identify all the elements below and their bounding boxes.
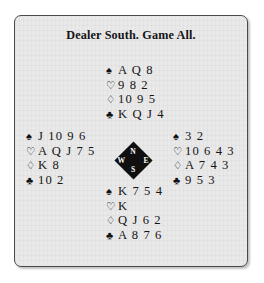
hand-north-hearts: 9 8 2 <box>118 79 149 92</box>
hand-north-diamonds: 10 9 5 <box>118 93 156 106</box>
diamond-icon: ♢ <box>173 161 185 172</box>
compass-label-south: S <box>114 166 152 174</box>
club-icon: ♣ <box>106 230 118 241</box>
bridge-deal-diagram: Dealer South. Game All. ♠ A Q 8 ♡ 9 8 2 … <box>14 15 248 267</box>
spade-icon: ♠ <box>26 131 38 142</box>
hand-west-clubs: 10 2 <box>38 174 64 187</box>
hand-west-hearts-row: ♡ A Q J 7 5 <box>26 145 95 160</box>
hand-west-spades-row: ♠ J 10 9 6 <box>26 130 95 145</box>
spade-icon: ♠ <box>106 186 118 197</box>
hand-south-clubs-row: ♣ A 8 7 6 <box>106 229 163 244</box>
club-icon: ♣ <box>173 175 185 186</box>
hand-south-spades: K 7 5 4 <box>118 185 163 198</box>
diamond-icon: ♢ <box>106 216 118 227</box>
heart-icon: ♡ <box>106 81 118 92</box>
hand-west: ♠ J 10 9 6 ♡ A Q J 7 5 ♢ K 8 ♣ 10 2 <box>26 130 95 188</box>
compass-rose-icon: N W E S <box>114 141 152 179</box>
hand-east-diamonds: A 7 4 3 <box>185 159 229 172</box>
spade-icon: ♠ <box>173 131 185 142</box>
hand-west-hearts: A Q J 7 5 <box>38 145 95 158</box>
hand-west-spades: J 10 9 6 <box>38 130 86 143</box>
heart-icon: ♡ <box>173 147 185 158</box>
compass-label-east: E <box>114 157 152 165</box>
heart-icon: ♡ <box>26 147 38 158</box>
hand-south-clubs: A 8 7 6 <box>118 229 162 242</box>
hand-south-hearts: K <box>118 200 128 213</box>
club-icon: ♣ <box>106 109 118 120</box>
hand-north-spades-row: ♠ A Q 8 <box>106 64 165 79</box>
club-icon: ♣ <box>26 175 38 186</box>
hand-north-clubs: K Q J 4 <box>118 108 165 121</box>
hand-south-hearts-row: ♡ K <box>106 200 163 215</box>
deal-title: Dealer South. Game All. <box>15 28 247 43</box>
hand-east-hearts-row: ♡ 10 6 4 3 <box>173 145 235 160</box>
hand-north-clubs-row: ♣ K Q J 4 <box>106 108 165 123</box>
spade-icon: ♠ <box>106 65 118 76</box>
hand-east-spades-row: ♠ 3 2 <box>173 130 235 145</box>
hand-north-spades: A Q 8 <box>118 64 154 77</box>
heart-icon: ♡ <box>106 202 118 213</box>
diamond-icon: ♢ <box>26 161 38 172</box>
hand-north: ♠ A Q 8 ♡ 9 8 2 ♢ 10 9 5 ♣ K Q J 4 <box>106 64 165 122</box>
diamond-icon: ♢ <box>106 95 118 106</box>
hand-east: ♠ 3 2 ♡ 10 6 4 3 ♢ A 7 4 3 ♣ 9 5 3 <box>173 130 235 188</box>
hand-west-diamonds-row: ♢ K 8 <box>26 159 95 174</box>
hand-east-diamonds-row: ♢ A 7 4 3 <box>173 159 235 174</box>
hand-south-diamonds-row: ♢ Q J 6 2 <box>106 214 163 229</box>
hand-east-hearts: 10 6 4 3 <box>185 145 235 158</box>
hand-north-diamonds-row: ♢ 10 9 5 <box>106 93 165 108</box>
hand-south-spades-row: ♠ K 7 5 4 <box>106 185 163 200</box>
hand-west-diamonds: K 8 <box>38 159 60 172</box>
hand-east-clubs: 9 5 3 <box>185 174 216 187</box>
hand-south-diamonds: Q J 6 2 <box>118 214 162 227</box>
hand-south: ♠ K 7 5 4 ♡ K ♢ Q J 6 2 ♣ A 8 7 6 <box>106 185 163 243</box>
hand-west-clubs-row: ♣ 10 2 <box>26 174 95 189</box>
hand-east-clubs-row: ♣ 9 5 3 <box>173 174 235 189</box>
compass-label-north: N <box>114 148 152 156</box>
hand-east-spades: 3 2 <box>185 130 204 143</box>
hand-north-hearts-row: ♡ 9 8 2 <box>106 79 165 94</box>
